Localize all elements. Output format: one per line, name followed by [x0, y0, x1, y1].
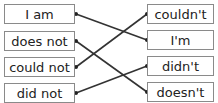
right-item-couldnt[interactable]: couldn't — [147, 4, 214, 24]
right-item-im[interactable]: I'm — [147, 30, 214, 50]
line-does-not-to-doesnt — [76, 41, 147, 92]
line-did-not-to-didnt — [76, 66, 147, 93]
right-item-didnt[interactable]: didn't — [147, 56, 214, 76]
line-i-am-to-im — [76, 14, 147, 40]
left-item-could-not[interactable]: could not — [4, 57, 75, 77]
line-could-not-to-couldnt — [76, 14, 147, 67]
left-item-i-am[interactable]: I am — [4, 4, 75, 24]
right-item-doesnt[interactable]: doesn't — [147, 82, 214, 102]
left-item-does-not[interactable]: does not — [4, 31, 75, 51]
left-item-did-not[interactable]: did not — [4, 83, 75, 103]
